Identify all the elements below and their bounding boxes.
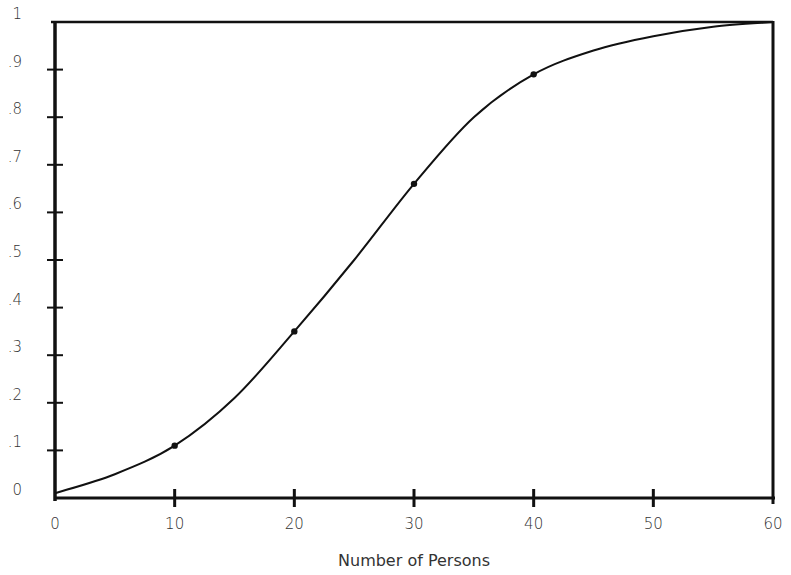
line-chart: 0.1.2.3.4.5.6.7.8.91 0102030405060 Numbe… [0, 0, 791, 575]
data-point-marker [171, 442, 177, 448]
x-axis-title: Number of Persons [338, 551, 490, 570]
y-tick-label: .3 [8, 338, 22, 356]
y-tick-label: .4 [8, 291, 22, 309]
x-tick-label: 20 [285, 515, 304, 533]
y-tick-label: 0 [12, 481, 22, 499]
data-curve [55, 22, 773, 493]
x-tick-label: 10 [165, 515, 184, 533]
x-tick-label: 50 [644, 515, 663, 533]
x-axis: 0102030405060 [50, 489, 782, 533]
y-tick-label: 1 [12, 5, 22, 23]
y-tick-label: .8 [8, 100, 22, 118]
y-tick-label: .6 [8, 195, 22, 213]
x-tick-label: 30 [404, 515, 423, 533]
y-tick-label: .5 [8, 243, 22, 261]
data-point-marker [530, 71, 536, 77]
data-point-marker [411, 181, 417, 187]
plot-frame [51, 21, 775, 504]
y-tick-label: .2 [8, 386, 22, 404]
y-tick-label: .7 [8, 148, 22, 166]
x-tick-label: 60 [763, 515, 782, 533]
x-tick-label: 0 [50, 515, 60, 533]
data-point-marker [291, 328, 297, 334]
y-tick-label: .9 [8, 53, 22, 71]
y-tick-label: .1 [8, 433, 22, 451]
x-tick-label: 40 [524, 515, 543, 533]
